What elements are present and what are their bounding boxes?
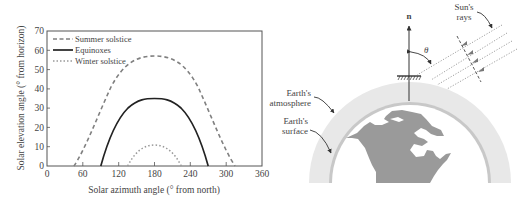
sun-rays-label-line2: rays [457,12,472,22]
solar-incidence-diagram: n θ [270,2,517,203]
ray-arrowheads [461,41,484,72]
theta-label: θ [424,45,429,55]
y-tick-label: 40 [35,84,45,94]
y-tick-label: 70 [35,26,45,36]
x-tick-labels: 0 60 120 180 240 300 360 [45,169,270,179]
y-axis-title: Solar elevation angle (° from horizon) [16,26,27,171]
x-tick-label: 60 [78,169,88,179]
sun-ray [431,33,507,80]
atmosphere-label-line2: atmosphere [270,98,311,108]
y-tick-label: 10 [35,142,45,152]
y-tick-label: 20 [35,123,45,133]
surface-label-line1: Earth's [283,116,308,126]
elevation-chart: 0 10 20 30 40 50 60 70 0 60 120 180 240 … [16,26,269,196]
y-tick-label: 50 [35,65,45,75]
atmosphere-pointer [314,97,334,113]
surface-label-line2: surface [282,126,308,136]
x-tick-label: 300 [219,169,234,179]
y-tick-label: 0 [39,161,44,171]
legend-label-summer: Summer solstice [75,34,132,44]
y-tick-label: 60 [35,46,45,56]
x-tick-label: 120 [112,169,127,179]
sun-rays [417,25,517,89]
legend-label-equinox: Equinoxes [75,45,111,55]
equinox-curve [101,99,208,167]
x-tick-label: 240 [183,169,198,179]
x-tick-label: 180 [147,169,162,179]
y-tick-label: 30 [35,103,45,113]
normal-label: n [406,11,411,21]
summer-solstice-curve [74,56,235,166]
legend-label-winter: Winter solstice [75,56,126,66]
y-tick-labels: 0 10 20 30 40 50 60 70 [35,26,45,171]
atmosphere-label-line1: Earth's [286,88,311,98]
figure: 0 10 20 30 40 50 60 70 0 60 120 180 240 … [0,0,529,203]
sun-ray [437,41,512,85]
legend: Summer solstice Equinoxes Winter solstic… [53,34,132,66]
sun-ray [417,25,502,75]
x-axis [83,162,226,166]
sun-rays-label-line1: Sun's [454,2,474,12]
x-tick-label: 360 [255,169,270,179]
x-tick-label: 0 [45,169,50,179]
sun-rays-pointer [477,12,492,28]
x-axis-title: Solar azimuth angle (° from north) [88,185,220,196]
